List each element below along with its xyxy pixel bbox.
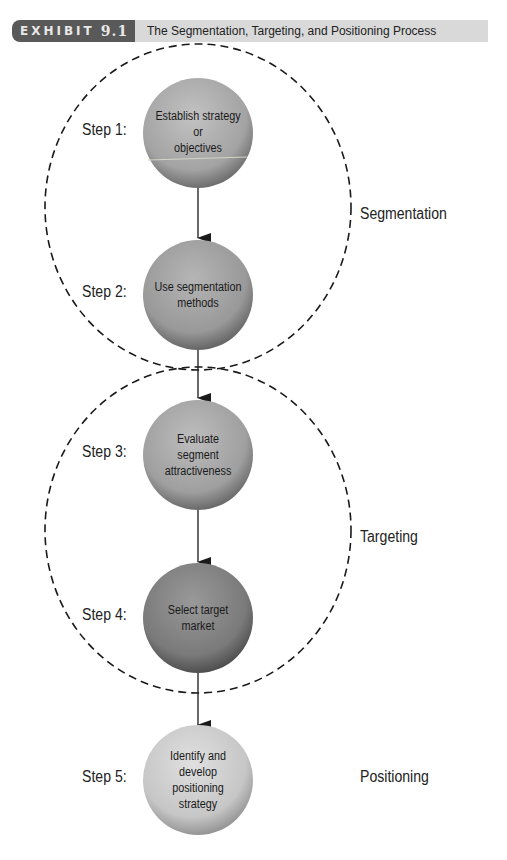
- step-4-label: Step 4:: [82, 606, 127, 624]
- phase-positioning-label: Positioning: [360, 768, 429, 786]
- step-1-text: Establish strategy or objectives: [149, 108, 248, 156]
- step-2-label: Step 2:: [82, 283, 127, 301]
- phase-segmentation-label: Segmentation: [360, 205, 447, 223]
- step-2-text: Use segmentation methods: [149, 279, 248, 311]
- step-4-text: Select target market: [149, 602, 248, 634]
- step-1-label: Step 1:: [82, 121, 127, 139]
- process-diagram: [0, 0, 507, 860]
- phase-targeting-label: Targeting: [360, 528, 418, 546]
- step-3-text: Evaluate segment attractiveness: [149, 431, 248, 479]
- step-5-label: Step 5:: [82, 768, 127, 786]
- step-5-text: Identify and develop positioning strateg…: [149, 748, 248, 812]
- step-3-label: Step 3:: [82, 443, 127, 461]
